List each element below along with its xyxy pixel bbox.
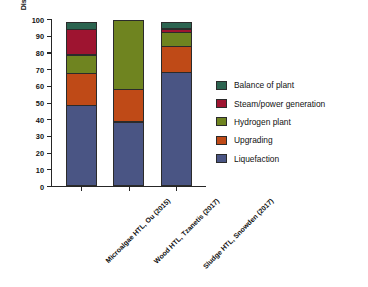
y-axis-tick-label: 100: [32, 15, 44, 24]
y-axis-tick: 60: [47, 86, 51, 87]
y-axis-tick: 90: [47, 36, 51, 37]
y-axis-tick: 0: [47, 186, 51, 187]
y-axis-tick-label: 80: [36, 48, 44, 57]
legend-label: Hydrogen plant: [234, 117, 291, 127]
plot-area: 0102030405060708090100: [51, 19, 206, 187]
legend-label: Liquefaction: [234, 154, 279, 164]
y-axis-tick-label: 90: [36, 32, 44, 41]
bar-segment: [66, 105, 97, 186]
legend-label: Steam/power generation: [234, 99, 325, 109]
y-axis-tick-label: 70: [36, 65, 44, 74]
x-axis-tick: [176, 187, 177, 191]
legend-item[interactable]: Upgrading: [216, 131, 366, 149]
legend-item[interactable]: Steam/power generation: [216, 94, 366, 112]
bar-segment: [113, 20, 144, 89]
y-axis-tick: 80: [47, 52, 51, 53]
legend-label: Upgrading: [234, 135, 273, 145]
y-axis-tick-label: 40: [36, 115, 44, 124]
bar-stack: [66, 19, 97, 186]
bar-stack: [113, 19, 144, 186]
stacked-bar-chart-figure: Distribution of Total Capital Investment…: [0, 0, 368, 287]
y-axis-tick: 20: [47, 153, 51, 154]
bar-segment: [113, 89, 144, 122]
legend-swatch: [216, 99, 227, 108]
bar-segment: [113, 122, 144, 186]
bar-segment: [66, 73, 97, 106]
bar-segment: [161, 72, 192, 186]
bar-segment: [161, 46, 192, 73]
x-axis-tick: [129, 187, 130, 191]
legend-swatch: [216, 154, 227, 163]
legend-item[interactable]: Liquefaction: [216, 150, 366, 168]
bar-stack: [161, 19, 192, 186]
y-axis-title: Distribution of Total Capital Investment…: [18, 0, 30, 26]
legend-swatch: [216, 136, 227, 145]
y-axis-tick: 100: [47, 19, 51, 20]
chart-legend: Balance of plantSteam/power generationHy…: [216, 76, 366, 168]
legend-item[interactable]: Balance of plant: [216, 76, 366, 94]
y-axis-tick-label: 60: [36, 82, 44, 91]
y-axis-tick-label: 0: [40, 182, 44, 191]
y-axis-tick: 50: [47, 103, 51, 104]
y-axis-tick-label: 10: [36, 165, 44, 174]
y-axis-tick: 30: [47, 136, 51, 137]
y-axis-tick-label: 50: [36, 99, 44, 108]
legend-swatch: [216, 117, 227, 126]
y-axis-tick: 70: [47, 69, 51, 70]
legend-swatch: [216, 81, 227, 90]
bar-segment: [161, 32, 192, 47]
x-axis-tick: [81, 187, 82, 191]
bar-segment: [66, 55, 97, 74]
y-axis-tick-label: 30: [36, 132, 44, 141]
legend-item[interactable]: Hydrogen plant: [216, 113, 366, 131]
legend-label: Balance of plant: [234, 80, 294, 90]
bars-layer: [52, 19, 206, 186]
y-axis-tick-label: 20: [36, 149, 44, 158]
y-axis-tick: 10: [47, 169, 51, 170]
y-axis-tick: 40: [47, 119, 51, 120]
bar-segment: [66, 29, 97, 55]
